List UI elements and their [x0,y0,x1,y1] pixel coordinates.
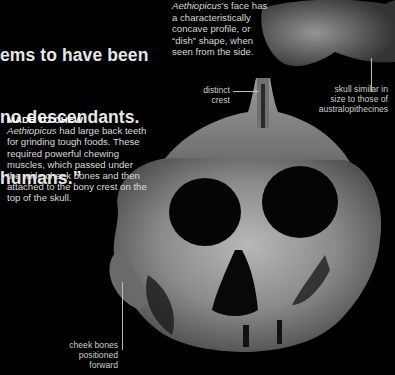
leader-line-cheek [122,282,123,350]
leader-line-skull-size [371,58,372,92]
side-caption-species: Aethiopicus [172,0,222,11]
label-cheek-line-2: positioned [60,350,118,360]
label-crest-line-1: distinct [190,85,230,95]
label-cheek-bones: cheek bones positioned forward [60,340,118,370]
label-cheek-line-1: cheek bones [60,340,118,350]
label-cheek-line-3: forward [60,360,118,370]
label-skull-line-1: skull similar in [300,84,388,94]
made-to-chew-section: MADE TO CHEW Aethiopicus had large back … [7,114,147,204]
quote-line-1: ems to have been [0,45,148,66]
section-heading: MADE TO CHEW [7,114,147,125]
side-profile-caption: Aethiopicus’s face has a characteristica… [172,0,272,58]
label-distinct-crest: distinct crest [190,85,230,105]
label-skull-line-3: australopithecines [300,104,388,114]
leader-line-crest [233,91,259,92]
label-crest-line-2: crest [190,95,230,105]
chew-species: Aethiopicus [7,125,57,136]
chew-body-text: had large back teeth for grinding tough … [7,125,147,203]
label-skull-line-2: size to those of [300,94,388,104]
label-skull-size: skull similar in size to those of austra… [300,84,388,114]
side-skull-image [261,0,395,66]
